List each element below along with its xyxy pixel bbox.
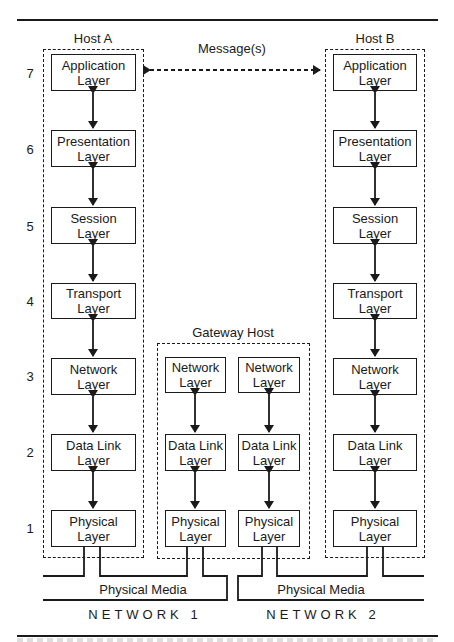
layer-suffix: Layer <box>77 529 110 544</box>
layer-name: Physical <box>351 514 399 529</box>
layer-suffix: Layer <box>77 377 110 392</box>
layer-number-3: 3 <box>26 369 33 384</box>
layer-suffix: Layer <box>359 301 392 316</box>
layer-name: Session <box>352 211 398 226</box>
layer-suffix: Layer <box>77 149 110 164</box>
host-a-presentation-layer: PresentationLayer <box>51 130 136 167</box>
layer-suffix: Layer <box>359 453 392 468</box>
host-b-transport-layer: TransportLayer <box>333 283 417 319</box>
layer-number-5: 5 <box>26 219 33 234</box>
osi-gateway-diagram: Host A Host B Gateway Host Message(s) 7 … <box>0 0 454 642</box>
layer-suffix: Layer <box>359 149 392 164</box>
layer-suffix: Layer <box>359 529 392 544</box>
layer-name: Physical <box>245 514 293 529</box>
layer-name: Presentation <box>339 134 412 149</box>
layer-suffix: Layer <box>77 301 110 316</box>
layer-number-1: 1 <box>26 521 33 536</box>
host-b-data-link-layer: Data LinkLayer <box>333 434 417 471</box>
layer-name: Data Link <box>348 438 403 453</box>
network-2-label: NETWORK 2 <box>266 607 379 622</box>
layer-suffix: Layer <box>359 73 392 88</box>
layer-name: Presentation <box>57 134 130 149</box>
layer-suffix: Layer <box>179 529 212 544</box>
gateway-left-data-link-layer: Data LinkLayer <box>165 434 226 471</box>
layer-name: Transport <box>66 286 121 301</box>
network-1-media-label: Physical Media <box>99 582 186 597</box>
bottom-rule <box>17 635 438 637</box>
clipped-caption <box>17 638 437 642</box>
host-a-session-layer: SessionLayer <box>51 207 136 244</box>
layer-name: Application <box>62 58 126 73</box>
layer-suffix: Layer <box>179 453 212 468</box>
layer-number-2: 2 <box>26 445 33 460</box>
layer-suffix: Layer <box>359 377 392 392</box>
gateway-right-data-link-layer: Data LinkLayer <box>238 434 300 471</box>
host-a-network-layer: NetworkLayer <box>51 358 136 395</box>
layer-name: Network <box>351 362 399 377</box>
host-b-presentation-layer: PresentationLayer <box>333 130 417 167</box>
gateway-left-network-layer: NetworkLayer <box>165 357 226 393</box>
layer-name: Network <box>245 360 293 375</box>
layer-name: Transport <box>347 286 402 301</box>
layer-suffix: Layer <box>77 226 110 241</box>
gateway-left-physical-layer: PhysicalLayer <box>165 510 226 547</box>
layer-number-7: 7 <box>26 66 33 81</box>
network-1-label: NETWORK 1 <box>88 607 201 622</box>
layer-name: Network <box>172 360 220 375</box>
layer-suffix: Layer <box>253 453 286 468</box>
host-a-title: Host A <box>74 31 112 46</box>
layer-suffix: Layer <box>77 73 110 88</box>
host-b-application-layer: ApplicationLayer <box>333 54 417 91</box>
layer-name: Data Link <box>242 438 297 453</box>
top-rule <box>17 19 438 21</box>
layer-suffix: Layer <box>77 453 110 468</box>
gateway-right-physical-layer: PhysicalLayer <box>238 510 300 547</box>
layer-name: Physical <box>171 514 219 529</box>
layer-suffix: Layer <box>253 529 286 544</box>
layer-number-4: 4 <box>26 294 33 309</box>
layer-name: Network <box>70 362 118 377</box>
host-b-session-layer: SessionLayer <box>333 207 417 244</box>
layer-suffix: Layer <box>253 375 286 390</box>
gateway-title: Gateway Host <box>192 325 274 340</box>
host-a-physical-layer: PhysicalLayer <box>51 510 136 547</box>
layer-suffix: Layer <box>179 375 212 390</box>
host-a-transport-layer: TransportLayer <box>51 283 136 319</box>
host-b-physical-layer: PhysicalLayer <box>333 510 417 547</box>
gateway-right-network-layer: NetworkLayer <box>238 357 300 393</box>
host-b-title: Host B <box>355 31 394 46</box>
host-b-network-layer: NetworkLayer <box>333 358 417 395</box>
layer-number-6: 6 <box>26 142 33 157</box>
host-a-data-link-layer: Data LinkLayer <box>51 434 136 471</box>
layer-name: Data Link <box>66 438 121 453</box>
layer-name: Session <box>70 211 116 226</box>
network-2-media-label: Physical Media <box>277 582 364 597</box>
layer-name: Application <box>343 58 407 73</box>
message-label: Message(s) <box>198 41 266 56</box>
host-a-application-layer: ApplicationLayer <box>51 54 136 91</box>
layer-name: Data Link <box>168 438 223 453</box>
layer-suffix: Layer <box>359 226 392 241</box>
layer-name: Physical <box>69 514 117 529</box>
